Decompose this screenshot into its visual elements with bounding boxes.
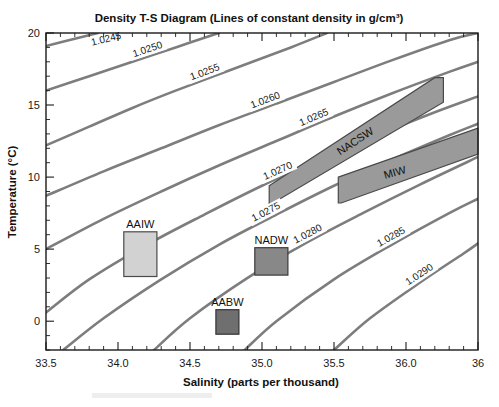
water-mass-box [255, 248, 288, 275]
water-mass-box [124, 232, 157, 277]
water-mass-label: AAIW [126, 218, 155, 230]
y-axis-title: Temperature (°C) [6, 146, 18, 239]
plot-area: 1.02451.02501.02551.02601.02651.02701.02… [46, 29, 478, 350]
scan-artifacts [92, 393, 212, 398]
y-axis-tick-label: 15 [28, 99, 40, 111]
water-mass-box [216, 310, 239, 335]
water-mass-label: NADW [255, 234, 289, 246]
x-axis-tick-label: 33.5 [35, 357, 56, 369]
x-axis-tick-label: 35.0 [251, 357, 272, 369]
water-mass-label: AABW [211, 296, 244, 308]
x-axis-tick-label: 35.5 [323, 357, 344, 369]
chart-canvas: Density T-S Diagram (Lines of constant d… [0, 0, 499, 407]
x-axis-tick-label: 36 [472, 357, 484, 369]
y-axis-tick-label: 5 [34, 243, 40, 255]
x-axis-tick-label: 34.0 [107, 357, 128, 369]
x-axis-tick-label: 34.5 [179, 357, 200, 369]
y-axis-tick-label: 20 [28, 27, 40, 39]
density-ts-diagram-figure: Density T-S Diagram (Lines of constant d… [0, 0, 499, 407]
x-axis-tick-label: 36.0 [395, 357, 416, 369]
plot-background [46, 33, 478, 350]
chart-title: Density T-S Diagram (Lines of constant d… [95, 12, 404, 24]
y-axis-tick-label: 10 [28, 171, 40, 183]
x-axis-title: Salinity (parts per thousand) [183, 376, 339, 388]
y-axis-tick-label: 0 [34, 315, 40, 327]
